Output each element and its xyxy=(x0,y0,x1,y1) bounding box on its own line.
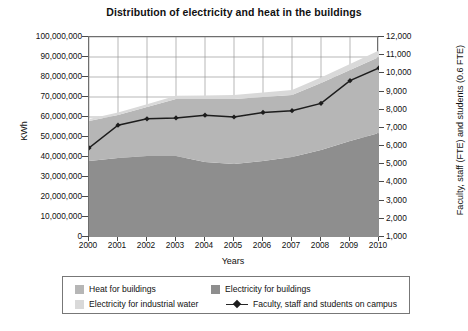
y-axis-right-tick-label: 4,000 xyxy=(386,177,446,185)
plot-area xyxy=(88,36,378,236)
y-axis-right-tick-label: 1,000 xyxy=(386,232,446,240)
legend-item-electricity-for-industrial-water: Electricity for industrial water xyxy=(75,299,198,309)
y-axis-left-tick-label: 90,000,000 xyxy=(0,52,82,60)
legend-item-heat-for-buildings: Heat for buildings xyxy=(75,284,156,294)
y-axis-right-tick-label: 11,000 xyxy=(386,50,446,58)
y-axis-right-tick-label: 3,000 xyxy=(386,196,446,204)
y-axis-left-tick-label: 80,000,000 xyxy=(0,72,82,80)
y-axis-left-tick-label: 0 xyxy=(0,232,82,240)
x-axis-title: Years xyxy=(88,256,378,266)
y-axis-left-tick-label: 20,000,000 xyxy=(0,192,82,200)
y-axis-right-title: Faculty, staff (FTE) and students (0.6 F… xyxy=(455,25,465,235)
y-axis-left-tick-label: 100,000,000 xyxy=(0,32,82,40)
y-axis-right-tick-label: 5,000 xyxy=(386,159,446,167)
legend-item-electricity-for-buildings: Electricity for buildings xyxy=(211,284,311,294)
y-axis-left-tick-label: 60,000,000 xyxy=(0,112,82,120)
y-axis-right-tick-label: 8,000 xyxy=(386,105,446,113)
y-axis-left-tick-label: 30,000,000 xyxy=(0,172,82,180)
legend-swatch-heat-for-buildings xyxy=(75,285,84,294)
legend-item-faculty-staff-students: Faculty, staff and students on campus xyxy=(226,299,397,309)
y-axis-right-tick-label: 9,000 xyxy=(386,87,446,95)
chart-legend: Heat for buildings Electricity for build… xyxy=(62,276,410,314)
y-axis-right-tick-label: 10,000 xyxy=(386,68,446,76)
y-axis-left-tick-label: 50,000,000 xyxy=(0,132,82,140)
y-axis-right-tick-label: 7,000 xyxy=(386,123,446,131)
y-axis-left-tick-label: 70,000,000 xyxy=(0,92,82,100)
y-axis-right-tick-label: 6,000 xyxy=(386,141,446,149)
legend-line-marker-icon xyxy=(226,300,248,309)
y-axis-right-tick-label: 12,000 xyxy=(386,32,446,40)
chart-container: Distribution of electricity and heat in … xyxy=(0,0,468,331)
legend-swatch-electricity-for-industrial-water xyxy=(75,300,84,309)
legend-label-electricity-for-buildings: Electricity for buildings xyxy=(225,284,311,294)
y-axis-right-tick-label: 2,000 xyxy=(386,214,446,222)
y-axis-left-tick-label: 40,000,000 xyxy=(0,152,82,160)
x-axis-tick-label: 2010 xyxy=(361,240,395,250)
legend-swatch-electricity-for-buildings xyxy=(211,285,220,294)
y-axis-left-tick-label: 10,000,000 xyxy=(0,212,82,220)
legend-label-heat-for-buildings: Heat for buildings xyxy=(89,284,156,294)
legend-label-electricity-for-industrial-water: Electricity for industrial water xyxy=(89,299,198,309)
plot-svg xyxy=(89,37,379,237)
legend-label-faculty-staff-students: Faculty, staff and students on campus xyxy=(253,299,397,309)
chart-title: Distribution of electricity and heat in … xyxy=(0,6,468,18)
